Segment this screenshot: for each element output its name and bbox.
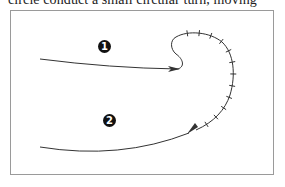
marker-2: 2: [103, 114, 116, 127]
loop-segment: [172, 37, 183, 69]
arc-tick-marks: [187, 30, 236, 127]
arc-tick: [229, 62, 235, 63]
arc-tick: [205, 122, 208, 127]
arc-tick: [221, 106, 226, 109]
arc-tick: [229, 85, 235, 86]
arc-arrowhead: [187, 123, 198, 134]
arc-tick: [187, 30, 188, 36]
path-1-line: [40, 59, 178, 69]
path-2-line: [40, 133, 189, 151]
turn-arc: [176, 33, 233, 130]
marker-1: 1: [98, 40, 111, 53]
arc-tick: [199, 30, 200, 36]
flight-path-diagram: [0, 0, 285, 187]
